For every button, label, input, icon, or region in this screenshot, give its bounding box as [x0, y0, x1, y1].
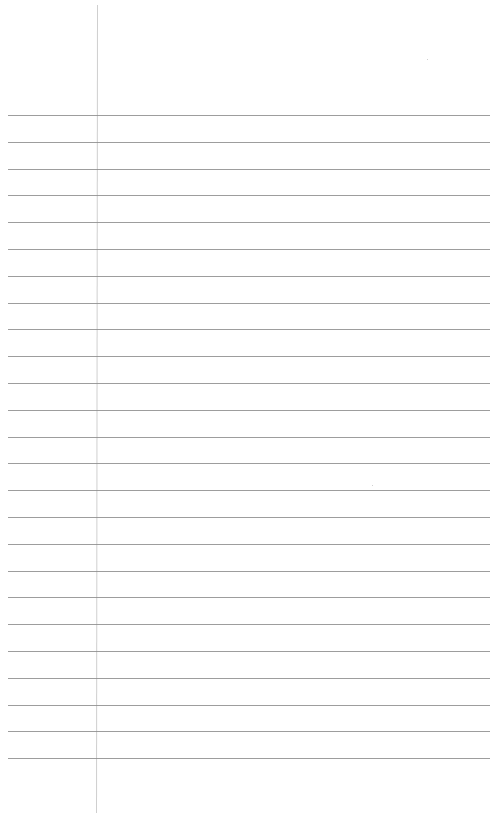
- ruled-line: [8, 571, 490, 572]
- paper-speck: [427, 59, 428, 60]
- paper-speck: [372, 485, 373, 486]
- ruled-line: [8, 169, 490, 170]
- margin-line: [96, 5, 98, 813]
- ruled-line: [8, 678, 490, 679]
- ruled-line: [8, 437, 490, 438]
- ruled-line: [8, 303, 490, 304]
- ruled-line: [8, 490, 490, 491]
- ruled-line: [8, 651, 490, 652]
- lined-paper-page: [0, 0, 493, 816]
- ruled-line: [8, 195, 490, 196]
- ruled-line: [8, 329, 490, 330]
- ruled-line: [8, 624, 490, 625]
- ruled-line: [8, 410, 490, 411]
- ruled-line: [8, 544, 490, 545]
- ruled-line: [8, 276, 490, 277]
- ruled-line: [8, 517, 490, 518]
- ruled-line: [8, 705, 490, 706]
- ruled-line: [8, 222, 490, 223]
- ruled-line: [8, 383, 490, 384]
- ruled-line: [8, 356, 490, 357]
- ruled-line: [8, 115, 490, 116]
- ruled-line: [8, 758, 490, 759]
- ruled-line: [8, 142, 490, 143]
- ruled-line: [8, 463, 490, 464]
- ruled-line: [8, 597, 490, 598]
- ruled-line: [8, 731, 490, 732]
- ruled-line: [8, 249, 490, 250]
